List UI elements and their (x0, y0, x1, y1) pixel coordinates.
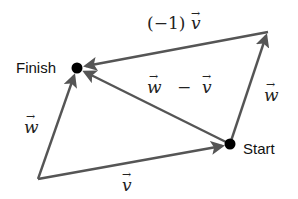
vector-arrow-icon: → (122, 168, 131, 181)
vector-arrow-icon: → (202, 70, 211, 83)
vector-neg-v-top (86, 32, 268, 66)
neg-v-prefix: (−1) (147, 13, 185, 33)
vector-arrow-icon: → (149, 70, 158, 83)
label-w-left: w → (24, 110, 39, 137)
vector-w-right (230, 36, 266, 144)
diagram-svg: Finish Start (−1) v → w → − v → w → w → … (0, 0, 298, 199)
vector-arrow-icon: → (191, 7, 200, 20)
vector-arrow-icon: → (266, 78, 275, 91)
vector-arrow-icon: → (26, 110, 35, 123)
label-w-minus-v: w → − v → (147, 70, 212, 97)
vector-w-left (38, 76, 74, 179)
label-neg-v: (−1) v → (147, 7, 201, 33)
finish-label: Finish (16, 59, 56, 76)
vector-subtraction-diagram: Finish Start (−1) v → w → − v → w → w → … (0, 0, 298, 199)
w-minus-v-minus: − (177, 77, 191, 97)
finish-point (72, 63, 83, 74)
label-w-right: w → (264, 78, 279, 105)
label-v-bottom: v → (122, 168, 132, 195)
start-label: Start (243, 140, 276, 157)
start-point (225, 139, 236, 150)
